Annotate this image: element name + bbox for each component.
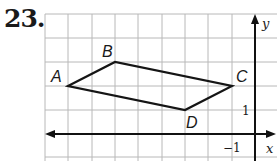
y-tick-label: 1 xyxy=(242,104,250,118)
x-axis-right-arrow-icon xyxy=(266,130,276,138)
x-axis-left-arrow-icon xyxy=(45,130,55,138)
y-axis xyxy=(251,14,259,161)
vertex-label-a: A xyxy=(50,68,62,85)
x-axis xyxy=(45,130,276,138)
coordinate-grid: y x 1 −1 A B C D xyxy=(0,0,277,161)
y-axis-up-arrow-icon xyxy=(251,14,259,24)
y-axis-label: y xyxy=(261,16,270,31)
vertex-label-d: D xyxy=(186,114,198,131)
x-axis-label: x xyxy=(266,141,274,156)
x-tick-label: −1 xyxy=(223,141,241,155)
vertex-label-c: C xyxy=(236,68,248,85)
vertex-label-b: B xyxy=(102,43,113,60)
